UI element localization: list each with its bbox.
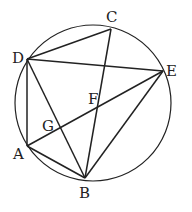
segment-be (85, 71, 163, 178)
label-point-c: C (106, 8, 117, 26)
label-point-d: D (12, 49, 24, 67)
segment-dc (27, 29, 111, 59)
label-point-b: B (79, 184, 90, 202)
label-point-f: F (88, 90, 98, 108)
segment-de (27, 59, 163, 71)
label-point-e: E (166, 62, 177, 80)
label-point-g: G (42, 117, 54, 135)
label-point-a: A (12, 145, 24, 163)
geometry-diagram: ABCDEFG (0, 0, 192, 212)
segment-ab (27, 146, 85, 178)
point-labels: ABCDEFG (12, 8, 177, 202)
